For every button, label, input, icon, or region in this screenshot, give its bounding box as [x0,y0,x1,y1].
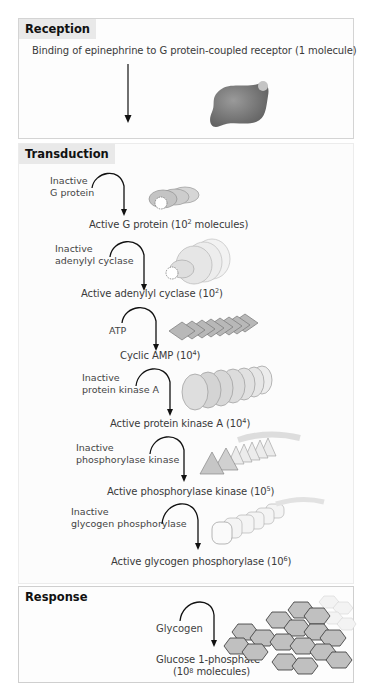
step1-output-label: Active G protein (102 molecules) [89,219,248,230]
phosphorylase-kinase-icon [198,430,308,480]
g-protein-icon [143,184,203,214]
glycogen-phosphorylase-icon [206,500,326,550]
curved-arrow-icon [108,237,148,292]
curved-arrow-icon [148,432,188,482]
protein-kinase-a-icon [180,366,280,416]
curved-arrow-icon [134,364,174,419]
transduction-title: Transduction [19,144,115,164]
step2-output-label: Active adenylyl cyclase (102) [81,288,223,299]
step1-input-label: Inactive G protein [50,175,94,199]
cyclic-amp-icon [168,312,273,342]
step3-output-label: Cyclic AMP (104) [120,350,200,361]
reception-caption: Binding of epinephrine to G protein-coup… [32,45,357,56]
glycogen-hexagon-icon [228,594,358,679]
curved-arrow-icon [120,303,160,353]
reception-title: Reception [19,19,96,39]
response-title: Response [19,587,93,607]
receptor-molecule-icon [206,76,276,131]
adenylyl-cyclase-icon [160,237,235,287]
curved-arrow-icon [90,168,130,218]
step5-output-label: Active phosphorylase kinase (105) [107,486,274,497]
down-arrow-icon [123,64,133,124]
curved-arrow-icon [178,597,218,652]
step4-output-label: Active protein kinase A (104) [110,418,250,429]
step6-output-label: Active glycogen phosphorylase (106) [111,556,291,567]
reception-panel: Reception Binding of epinephrine to G pr… [18,18,354,139]
curved-arrow-icon [160,498,205,558]
